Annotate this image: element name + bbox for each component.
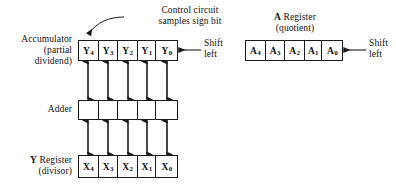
a-register-cell-1-sub: 3	[277, 49, 281, 57]
y-register-cell-3-base: X	[141, 162, 148, 172]
y-register-cell-1-sub: 3	[110, 165, 114, 173]
adder-label: Adder	[0, 104, 72, 115]
y-register-cell-2-base: X	[122, 162, 129, 172]
a-register-cell-0-base: A	[250, 46, 257, 56]
a-register-label-line-2: (quotient)	[237, 23, 353, 34]
a-register-cell-4-sub: 0	[334, 49, 338, 57]
y-register-cell-2[interactable]: X2	[118, 156, 138, 177]
y-register-cell-4-base: X	[162, 162, 169, 172]
control-circuit-pointer-arrow	[89, 17, 124, 34]
accumulator-cell-3-base: Y	[141, 46, 148, 56]
accumulator-cell-1[interactable]: Y3	[99, 41, 119, 60]
adder-cell-1[interactable]	[99, 101, 119, 119]
accumulator-label-line-3: dividend)	[0, 56, 72, 67]
y-register[interactable]: X4 X3 X2 X1 X0	[78, 155, 178, 178]
adder-cell-0[interactable]	[79, 101, 99, 119]
adder-label-text: Adder	[0, 104, 72, 115]
a-register-cell-0[interactable]: A4	[246, 41, 266, 60]
accumulator-cell-2-base: Y	[122, 46, 129, 56]
accumulator-cell-1-base: Y	[103, 46, 110, 56]
accumulator-label-line-2: (partial	[0, 45, 72, 56]
y-register-cell-0-sub: 4	[90, 165, 94, 173]
y-register-label-line-2: (divisor)	[0, 166, 72, 177]
y-register-cell-4-sub: 0	[169, 165, 173, 173]
accumulator-cell-2[interactable]: Y2	[118, 41, 138, 60]
a-register-label: A Register (quotient)	[237, 12, 353, 34]
y-register-label-rest: Register	[40, 155, 72, 165]
a-register-cell-0-sub: 4	[257, 49, 261, 57]
accumulator-cell-2-sub: 2	[130, 49, 134, 57]
accumulator-cell-1-sub: 3	[110, 49, 114, 57]
y-register-cell-1-base: X	[103, 162, 110, 172]
y-register-cell-1[interactable]: X3	[99, 156, 119, 177]
y-register-cell-4[interactable]: X0	[156, 156, 177, 177]
adder-cell-4[interactable]	[156, 101, 177, 119]
shift-left-label-a-register: Shift left	[369, 38, 396, 60]
accumulator-label-line-1: Accumulator	[0, 34, 72, 45]
a-register-label-line-1: A Register	[237, 12, 353, 23]
a-register-cell-2[interactable]: A2	[285, 41, 305, 60]
bus-adder-to-y-register	[88, 121, 167, 155]
accumulator-cell-3-sub: 1	[149, 49, 153, 57]
accumulator-cell-0-base: Y	[83, 46, 90, 56]
y-register-label: Y Register (divisor)	[0, 155, 72, 177]
accumulator-cell-0[interactable]: Y4	[79, 41, 99, 60]
a-register-cell-2-base: A	[289, 46, 296, 56]
y-register-cell-0-base: X	[83, 162, 90, 172]
adder-cell-2[interactable]	[118, 101, 138, 119]
a-register-label-bold: A	[274, 12, 281, 22]
a-register-label-rest: Register	[283, 12, 315, 22]
a-register-cell-3-sub: 1	[315, 49, 319, 57]
shift-left-label-accumulator: Shift left	[204, 38, 244, 60]
bus-accumulator-to-adder	[88, 62, 167, 100]
a-register-cell-4-base: A	[327, 46, 334, 56]
a-register-cell-3[interactable]: A1	[305, 41, 323, 60]
shift-left-a-register-line-2: left	[369, 49, 396, 60]
a-register-cell-1[interactable]: A3	[266, 41, 286, 60]
divider-block-diagram: Control circuit samples sign bit Accumul…	[0, 0, 396, 193]
shift-left-accumulator-line-2: left	[204, 49, 244, 60]
a-register-cell-3-base: A	[308, 46, 315, 56]
shift-left-a-register-line-1: Shift	[369, 38, 396, 49]
accumulator-cell-4-base: Y	[162, 46, 169, 56]
a-register[interactable]: A4 A3 A2 A1 A0	[245, 40, 343, 61]
accumulator-cell-3[interactable]: Y1	[138, 41, 157, 60]
y-register-label-line-1: Y Register	[0, 155, 72, 166]
y-register-cell-3-sub: 1	[149, 165, 153, 173]
shift-left-accumulator-line-1: Shift	[204, 38, 244, 49]
adder-cell-3[interactable]	[138, 101, 157, 119]
accumulator-cell-4-sub: 0	[169, 49, 173, 57]
y-register-cell-3[interactable]: X1	[138, 156, 157, 177]
accumulator-register[interactable]: Y4 Y3 Y2 Y1 Y0	[78, 40, 178, 61]
adder-register[interactable]	[78, 100, 178, 120]
y-register-label-bold: Y	[30, 155, 37, 165]
a-register-cell-4[interactable]: A0	[322, 41, 342, 60]
accumulator-cell-4[interactable]: Y0	[156, 41, 177, 60]
a-register-cell-2-sub: 2	[296, 49, 300, 57]
y-register-cell-2-sub: 2	[130, 165, 134, 173]
accumulator-label: Accumulator (partial dividend)	[0, 34, 72, 67]
a-register-cell-1-base: A	[270, 46, 277, 56]
accumulator-cell-0-sub: 4	[90, 49, 94, 57]
y-register-cell-0[interactable]: X4	[79, 156, 99, 177]
